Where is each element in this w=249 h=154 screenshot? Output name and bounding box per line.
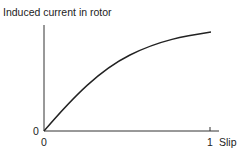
y-axis-label: Induced current in rotor [3,7,112,18]
x-origin-label: 0 [41,137,47,148]
current-curve [44,32,211,131]
x-axis-label: Slip [219,137,237,148]
y-origin-label: 0 [33,126,39,137]
x-end-label: 1 [207,137,213,148]
